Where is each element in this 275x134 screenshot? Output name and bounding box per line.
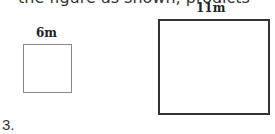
question-number: 3. bbox=[2, 116, 15, 133]
small-square-label: 6m bbox=[36, 26, 57, 40]
small-square bbox=[23, 44, 72, 93]
large-rectangle-label: 11m bbox=[196, 1, 225, 15]
large-rectangle bbox=[158, 19, 270, 115]
